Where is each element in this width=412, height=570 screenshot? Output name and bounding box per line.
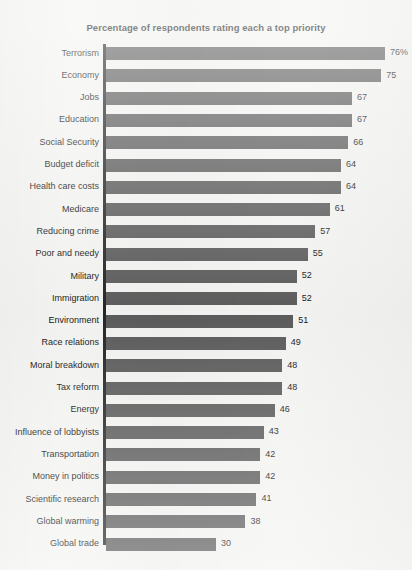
bar	[106, 92, 352, 105]
bar-value-label: 38	[250, 516, 260, 526]
bar	[106, 404, 275, 417]
bar-category-label: Environment	[0, 315, 99, 325]
bar-category-label: Tax reform	[0, 382, 99, 392]
bar-row: Scientific research41	[0, 490, 412, 512]
bar	[106, 69, 381, 82]
bar-row: Global warming38	[0, 512, 412, 534]
bar-category-label: Money in politics	[0, 471, 99, 481]
bar-category-label: Immigration	[0, 293, 99, 303]
bar-row: Military52	[0, 267, 412, 289]
bar-value-label: 43	[269, 426, 279, 436]
bar-category-label: Transportation	[0, 449, 99, 459]
bar-value-label: 52	[302, 270, 312, 280]
bar-value-label: 64	[346, 181, 356, 191]
bar-category-label: Terrorism	[0, 48, 99, 58]
bar	[106, 159, 341, 172]
bar-category-label: Global warming	[0, 516, 99, 526]
bar-row: Transportation42	[0, 445, 412, 467]
bar-row: Race relations49	[0, 334, 412, 356]
bar	[106, 337, 286, 350]
bar-row: Global trade30	[0, 535, 412, 557]
bar-value-label: 48	[287, 382, 297, 392]
bar-row: Poor and needy55	[0, 245, 412, 267]
bar-row: Medicare61	[0, 200, 412, 222]
bar-value-label: 75	[386, 70, 396, 80]
bar-category-label: Social Security	[0, 137, 99, 147]
bar	[106, 114, 352, 127]
bar-category-label: Military	[0, 271, 99, 281]
bar-value-label: 42	[265, 471, 275, 481]
bar-category-label: Poor and needy	[0, 248, 99, 258]
bar	[106, 448, 260, 461]
bar-value-label: 42	[265, 449, 275, 459]
bar-row: Moral breakdown48	[0, 356, 412, 378]
bar-category-label: Race relations	[0, 337, 99, 347]
bar-row: Education67	[0, 111, 412, 133]
bar-value-label: 64	[346, 159, 356, 169]
bar	[106, 136, 348, 149]
bar-category-label: Health care costs	[0, 181, 99, 191]
bar-row: Budget deficit64	[0, 156, 412, 178]
bar	[106, 471, 260, 484]
bar-category-label: Influence of lobbyists	[0, 427, 99, 437]
bar-row: Tax reform48	[0, 379, 412, 401]
bar-category-label: Medicare	[0, 204, 99, 214]
bar-value-label: 66	[353, 137, 363, 147]
bar-row: Influence of lobbyists43	[0, 423, 412, 445]
bar-row: Economy75	[0, 66, 412, 88]
bar-value-label: 30	[221, 538, 231, 548]
bar	[106, 515, 245, 528]
bar-value-label: 46	[280, 404, 290, 414]
bar	[106, 538, 216, 551]
bar-value-label: 49	[291, 337, 301, 347]
bar	[106, 181, 341, 194]
bar-row: Health care costs64	[0, 178, 412, 200]
bar	[106, 47, 385, 60]
bar-category-label: Budget deficit	[0, 159, 99, 169]
bar	[106, 292, 297, 305]
bar-value-label: 57	[320, 226, 330, 236]
bar-row: Social Security66	[0, 133, 412, 155]
bar-value-label: 55	[313, 248, 323, 258]
bar-value-label: 51	[298, 315, 308, 325]
bar	[106, 493, 256, 506]
bar-row: Reducing crime57	[0, 222, 412, 244]
bar-category-label: Scientific research	[0, 494, 99, 504]
bar-category-label: Education	[0, 114, 99, 124]
bar-category-label: Reducing crime	[0, 226, 99, 236]
bar-category-label: Moral breakdown	[0, 360, 99, 370]
bar-category-label: Energy	[0, 404, 99, 414]
bar	[106, 359, 282, 372]
bar-value-label: 41	[261, 493, 271, 503]
bar	[106, 270, 297, 283]
bar	[106, 426, 264, 439]
bar-chart-plot-area: Terrorism76%Economy75Jobs67Education67So…	[0, 44, 412, 546]
bar-row: Energy46	[0, 401, 412, 423]
bar	[106, 225, 315, 238]
chart-title: Percentage of respondents rating each a …	[0, 22, 412, 33]
bar-value-label: 67	[357, 114, 367, 124]
bar-value-label: 67	[357, 92, 367, 102]
bar	[106, 382, 282, 395]
bar-category-label: Global trade	[0, 538, 99, 548]
bar-row: Money in politics42	[0, 468, 412, 490]
bar-category-label: Economy	[0, 70, 99, 80]
bar-value-label: 48	[287, 360, 297, 370]
bar-row: Jobs67	[0, 89, 412, 111]
bar-row: Terrorism76%	[0, 44, 412, 66]
bar	[106, 315, 293, 328]
bar	[106, 248, 308, 261]
bar-row: Environment51	[0, 312, 412, 334]
bar-value-label: 61	[335, 203, 345, 213]
bar-value-label: 52	[302, 293, 312, 303]
bar-category-label: Jobs	[0, 92, 99, 102]
bar-value-label: 76%	[390, 47, 408, 57]
bar	[106, 203, 330, 216]
bar-row: Immigration52	[0, 289, 412, 311]
